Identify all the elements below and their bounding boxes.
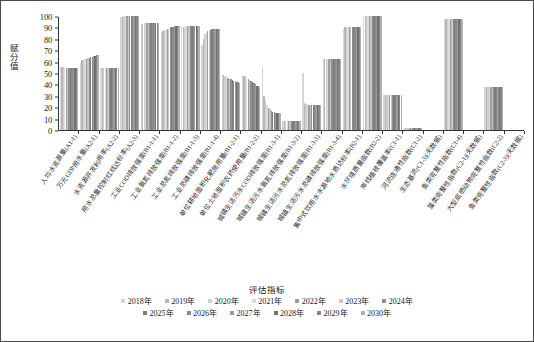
y-axis-tick-label: 50 <box>44 70 52 79</box>
bar <box>502 87 503 130</box>
plot-area <box>58 17 524 131</box>
legend-swatch <box>382 299 386 303</box>
y-axis-title: 赋分值 <box>7 44 19 71</box>
bar <box>158 23 159 130</box>
y-axis-tick-label: 10 <box>44 115 52 124</box>
y-axis: 0102030405060708090100 <box>1 17 58 131</box>
legend-swatch <box>317 311 321 315</box>
legend-swatch <box>143 311 147 315</box>
x-axis-title: 评估指标 <box>1 283 533 295</box>
bar <box>97 55 98 130</box>
bar-group <box>281 17 301 130</box>
bar-group <box>342 17 362 130</box>
legend-swatch <box>165 299 169 303</box>
legend-swatch <box>187 311 191 315</box>
bar-group <box>79 17 99 130</box>
legend-swatch <box>208 299 212 303</box>
bar-group <box>302 17 322 130</box>
y-axis-tick-label: 30 <box>44 93 52 102</box>
y-axis-tick-label: 0 <box>48 127 52 136</box>
legend-item[interactable]: 2023年 <box>339 295 370 306</box>
bar <box>239 83 240 130</box>
bar-group <box>99 17 119 130</box>
bar <box>421 128 422 130</box>
legend-item[interactable]: 2024年 <box>382 295 413 306</box>
bar-group <box>120 17 140 130</box>
bar-group <box>201 17 221 130</box>
legend-swatch <box>274 311 278 315</box>
legend-item[interactable]: 2025年 <box>143 307 174 318</box>
bar <box>461 19 462 130</box>
legend-item[interactable]: 2026年 <box>187 307 218 318</box>
bar <box>299 121 300 130</box>
legend-swatch <box>230 311 234 315</box>
legend-item[interactable]: 2021年 <box>252 295 283 306</box>
legend-label: 2028年 <box>280 307 304 318</box>
bar <box>198 26 199 130</box>
legend-item[interactable]: 2020年 <box>208 295 239 306</box>
bar <box>340 59 341 130</box>
legend-swatch <box>339 299 343 303</box>
bar-group <box>180 17 200 130</box>
legend-label: 2029年 <box>324 307 348 318</box>
bar-group <box>261 17 281 130</box>
legend-swatch <box>121 299 125 303</box>
x-axis-tick-mark <box>524 131 525 134</box>
bar-group <box>403 17 423 130</box>
legend-item[interactable]: 2019年 <box>165 295 196 306</box>
y-axis-tick-label: 40 <box>44 81 52 90</box>
y-axis-tick-label: 80 <box>44 36 52 45</box>
legend-swatch <box>361 311 365 315</box>
bar-group <box>463 17 483 130</box>
bar-group <box>160 17 180 130</box>
y-axis-tick-label: 20 <box>44 104 52 113</box>
bar-group <box>241 17 261 130</box>
legend-label: 2020年 <box>215 295 239 306</box>
legend-label: 2023年 <box>345 295 369 306</box>
legend-label: 2024年 <box>389 295 413 306</box>
legend-item[interactable]: 2030年 <box>361 307 392 318</box>
bar-group <box>423 17 443 130</box>
bar-group <box>383 17 403 130</box>
legend-label: 2030年 <box>367 307 391 318</box>
bar-group <box>504 17 524 130</box>
x-axis-labels: 人均水资源量(A1-1)万元GDP用水量(A2-1)水资源开发利用率(A2-2)… <box>58 134 524 279</box>
bar-group <box>59 17 79 130</box>
bar-group <box>140 17 160 130</box>
legend-label: 2018年 <box>128 295 152 306</box>
bar-group <box>443 17 463 130</box>
legend-label: 2021年 <box>258 295 282 306</box>
bars-layer <box>59 17 524 130</box>
bar <box>259 87 260 130</box>
legend-item[interactable]: 2022年 <box>295 295 326 306</box>
legend-swatch <box>252 299 256 303</box>
legend-row-2: 2025年2026年2027年2028年2029年2030年 <box>1 307 533 318</box>
bar-group <box>322 17 342 130</box>
bar <box>178 26 179 130</box>
bar <box>118 68 119 130</box>
legend-item[interactable]: 2027年 <box>230 307 261 318</box>
legend-label: 2026年 <box>193 307 217 318</box>
bar <box>219 29 220 130</box>
bar <box>401 95 402 130</box>
legend: 2018年2019年2020年2021年2022年2023年2024年 2025… <box>1 295 533 319</box>
y-axis-tick-label: 100 <box>40 13 52 22</box>
y-axis-tick-label: 90 <box>44 24 52 33</box>
legend-swatch <box>295 299 299 303</box>
bar-group <box>362 17 382 130</box>
legend-label: 2025年 <box>150 307 174 318</box>
legend-item[interactable]: 2029年 <box>317 307 348 318</box>
legend-item[interactable]: 2028年 <box>274 307 305 318</box>
bar <box>380 16 381 130</box>
legend-item[interactable]: 2018年 <box>121 295 152 306</box>
bar <box>138 16 139 130</box>
legend-label: 2022年 <box>302 295 326 306</box>
bar <box>320 105 321 130</box>
legend-label: 2019年 <box>171 295 195 306</box>
bar <box>279 113 280 130</box>
chart-figure: 0102030405060708090100 赋分值 人均水资源量(A1-1)万… <box>0 0 534 342</box>
legend-row-1: 2018年2019年2020年2021年2022年2023年2024年 <box>1 295 533 306</box>
y-axis-tick-label: 60 <box>44 58 52 67</box>
y-axis-tick-label: 70 <box>44 47 52 56</box>
bar-group <box>484 17 504 130</box>
